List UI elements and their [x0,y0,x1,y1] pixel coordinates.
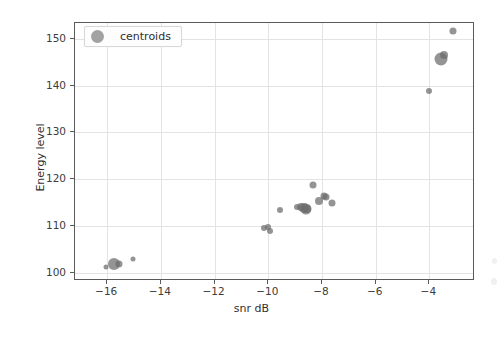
plot-area [74,22,474,280]
y-axis-tick-label: 120 [46,172,66,184]
x-axis-tick [428,280,429,284]
scan-artifact [491,278,497,285]
data-point [277,207,283,213]
x-axis-tick [375,280,376,284]
scan-artifact [492,258,497,264]
x-axis-tick-label: −10 [256,285,278,297]
gridline-vertical [429,23,430,279]
gridline-vertical [376,23,377,279]
data-point [323,193,330,200]
gridline-horizontal [75,86,473,87]
y-axis-tick [70,225,74,226]
data-point [440,51,448,59]
gridline-horizontal [75,179,473,180]
x-axis-tick [106,280,107,284]
y-axis-tick-label: 140 [46,79,66,91]
x-axis-tick-label: −14 [149,285,171,297]
gridline-vertical [161,23,162,279]
y-axis-tick [70,272,74,273]
x-axis-tick-label: −6 [367,285,382,297]
x-axis-tick [321,280,322,284]
legend-entry-label: centroids [120,30,171,43]
y-axis-tick [70,178,74,179]
x-axis-tick-label: −4 [421,285,436,297]
x-axis-tick [214,280,215,284]
y-axis-tick-label: 110 [46,219,66,231]
data-point [130,257,135,262]
centroid-marker-swatch-icon [91,30,104,43]
x-axis-label: snr dB [0,302,503,315]
x-axis-tick-label: −12 [203,285,225,297]
gridline-horizontal [75,226,473,227]
gridline-vertical [107,23,108,279]
data-point [303,205,311,213]
data-point [426,88,432,94]
y-axis-tick [70,131,74,132]
x-axis-tick [160,280,161,284]
data-point [329,199,336,206]
y-axis-tick [70,38,74,39]
x-axis-tick-label: −16 [95,285,117,297]
data-point [267,228,273,234]
data-point [449,27,456,34]
y-axis-tick-label: 150 [46,32,66,44]
y-axis-label: Energy level [34,78,47,238]
x-axis-tick-label: −8 [313,285,328,297]
gridline-vertical [268,23,269,279]
scatter-plot-figure: 100110120130140150−16−14−12−10−8−6−4 snr… [0,0,503,342]
x-axis-tick [267,280,268,284]
data-point [310,181,317,188]
y-axis-tick-label: 100 [46,266,66,278]
chart-legend: centroids [84,26,182,47]
gridline-horizontal [75,132,473,133]
gridline-vertical [215,23,216,279]
y-axis-tick [70,85,74,86]
y-axis-tick-label: 130 [46,125,66,137]
gridline-horizontal [75,273,473,274]
gridline-vertical [322,23,323,279]
data-point [116,260,123,267]
